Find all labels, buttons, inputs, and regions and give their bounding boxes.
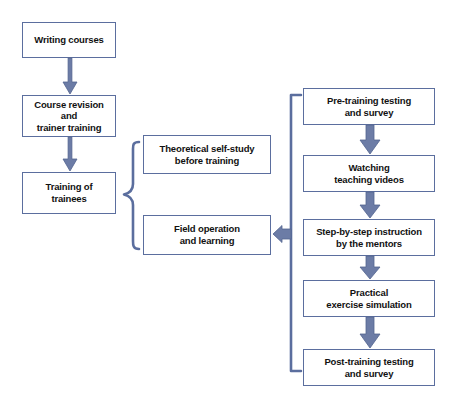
arrow-pre-to-watching-icon: [358, 125, 382, 155]
flowchart-diagram: Writing courses Course revision and trai…: [0, 0, 454, 401]
node-post-training-testing: Post-training testing and survey: [303, 349, 435, 386]
node-writing-courses: Writing courses: [22, 22, 116, 58]
arrow-revision-to-training-icon: [60, 137, 80, 172]
arrow-watching-to-step-icon: [358, 192, 382, 219]
arrow-practical-to-post-icon: [358, 317, 382, 349]
node-field-operation: Field operation and learning: [143, 215, 271, 255]
bracket-right-column-to-field-icon: [271, 92, 305, 374]
node-theoretical-self-study: Theoretical self-study before training: [143, 135, 271, 174]
node-training-of-trainees: Training of trainees: [22, 172, 116, 214]
node-step-by-step-instruction: Step-by-step instruction by the mentors: [303, 219, 435, 256]
brace-trainees-to-middle-icon: [120, 140, 142, 252]
node-watching-teaching-videos: Watching teaching videos: [303, 155, 435, 192]
node-pre-training-testing: Pre-training testing and survey: [303, 88, 435, 125]
node-course-revision: Course revision and trainer training: [22, 95, 116, 137]
arrow-writing-to-revision-icon: [60, 58, 80, 95]
node-practical-exercise: Practical exercise simulation: [303, 280, 435, 317]
arrow-step-to-practical-icon: [358, 256, 382, 280]
